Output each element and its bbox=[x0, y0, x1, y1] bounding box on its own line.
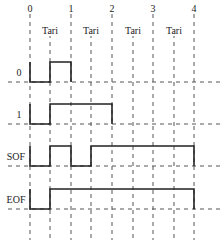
signal-label-1: 1 bbox=[17, 109, 22, 120]
timing-diagram: 0 1 2 3 4 Tari Tari Tari Tari 0 1 SOF EO… bbox=[0, 0, 223, 244]
tick-4: 4 bbox=[192, 3, 197, 14]
tick-1: 1 bbox=[69, 3, 74, 14]
tick-2: 2 bbox=[110, 3, 115, 14]
vertical-gridlines bbox=[30, 14, 194, 240]
signal-label-0: 0 bbox=[17, 67, 22, 78]
waveform-sof bbox=[30, 146, 194, 166]
tari-label-3: Tari bbox=[125, 25, 141, 36]
tari-label-4: Tari bbox=[166, 25, 182, 36]
signal-label-sof: SOF bbox=[7, 151, 26, 162]
tari-label-1: Tari bbox=[42, 25, 58, 36]
tari-label-2: Tari bbox=[83, 25, 99, 36]
signal-label-eof: EOF bbox=[7, 194, 26, 205]
tick-3: 3 bbox=[151, 3, 156, 14]
waveform-0 bbox=[30, 62, 71, 82]
tick-0: 0 bbox=[28, 3, 33, 14]
